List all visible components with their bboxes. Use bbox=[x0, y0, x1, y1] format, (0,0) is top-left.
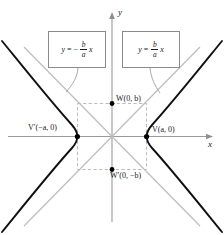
right-asymptote-equation: y = b a x bbox=[138, 41, 164, 58]
right-eq-variable: x bbox=[159, 46, 164, 54]
right-eq-fraction: b a bbox=[151, 41, 158, 58]
left-eq-variable: x bbox=[88, 46, 93, 54]
left-eq-relation: = bbox=[65, 46, 74, 54]
right-asymptote-callout: y = b a x bbox=[122, 31, 180, 68]
right-vertex-label: V(a, 0) bbox=[152, 126, 175, 134]
y-axis bbox=[109, 12, 115, 222]
left-callout-leader bbox=[66, 68, 78, 92]
vertex-dot-left bbox=[75, 134, 80, 139]
covertex-dot-top bbox=[110, 101, 115, 106]
bottom-covertex-label: W′(0, −b) bbox=[110, 172, 141, 180]
top-covertex-label: W(0, b) bbox=[116, 95, 141, 103]
right-eq-numerator: b bbox=[152, 41, 158, 49]
left-asymptote-equation: y = − b a x bbox=[61, 41, 92, 58]
left-vertex-label: V′(−a, 0) bbox=[28, 124, 57, 132]
hyperbola-figure: y x V′(−a, 0) V(a, 0) W(0, b) W′(0, −b) … bbox=[0, 0, 224, 235]
left-eq-denominator: a bbox=[81, 50, 87, 58]
y-axis-label: y bbox=[118, 8, 122, 17]
vertex-dot-right bbox=[144, 134, 149, 139]
right-eq-denominator: a bbox=[152, 50, 158, 58]
figure-canvas bbox=[0, 0, 224, 235]
left-eq-fraction: b a bbox=[80, 41, 87, 58]
x-axis-label: x bbox=[208, 140, 212, 149]
left-eq-numerator: b bbox=[81, 41, 87, 49]
left-eq-sign: − bbox=[74, 46, 80, 54]
left-asymptote-callout: y = − b a x bbox=[48, 31, 106, 68]
right-eq-relation: = bbox=[142, 46, 151, 54]
